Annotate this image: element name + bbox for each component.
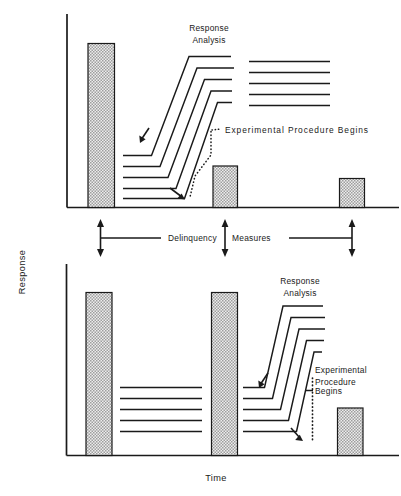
y-axis-label: Response — [17, 250, 27, 295]
table-row — [86, 293, 112, 456]
top-response-analysis-label-line2: Analysis — [192, 35, 225, 45]
table-row — [213, 166, 238, 208]
table-row — [338, 408, 364, 456]
bottom-experimental-label-line3: Begins — [315, 386, 342, 396]
top-experimental-procedure-label: Experimental Procedure Begins — [225, 125, 369, 135]
delinquency-measures-label-a: Delinquency — [168, 233, 217, 243]
x-axis-label: Time — [205, 473, 227, 483]
table-row — [212, 293, 238, 456]
figure-container: Response Response Analysi — [0, 0, 401, 496]
top-response-analysis-label-line1: Response — [189, 23, 229, 33]
bottom-response-analysis-label-line2: Analysis — [283, 288, 316, 298]
chart-svg: Response Response Analysi — [0, 0, 401, 496]
delinquency-measures-label-b: Measures — [232, 233, 271, 243]
table-row — [88, 44, 115, 208]
table-row — [340, 179, 365, 208]
bottom-experimental-label-line1: Experimental — [315, 365, 367, 375]
bottom-response-analysis-label-line1: Response — [280, 276, 320, 286]
